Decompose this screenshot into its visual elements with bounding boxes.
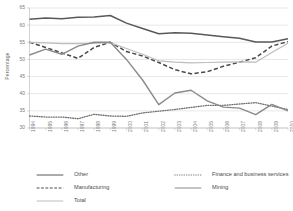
legend-item-label: Other	[74, 170, 88, 178]
series-line	[30, 16, 289, 42]
legend-item-label: Finance and business services	[212, 170, 289, 178]
gridlines	[30, 8, 289, 128]
legend-item-label: Total	[74, 196, 86, 204]
series-line	[30, 42, 289, 74]
legend-line-swatch-icon	[30, 174, 70, 176]
series-lines	[30, 16, 289, 119]
legend-item-label: Mining	[212, 183, 228, 191]
legend-line-swatch-icon	[168, 174, 208, 176]
chart-legend: OtherFinance and business servicesManufa…	[0, 168, 293, 211]
legend-item-label: Manufacturing	[74, 183, 109, 191]
legend-line-swatch-icon	[30, 200, 70, 202]
legend-line-swatch-icon	[168, 187, 208, 189]
line-chart: Percentage 6560555045403530 199419951996…	[0, 0, 293, 211]
legend-line-swatch-icon	[30, 187, 70, 189]
